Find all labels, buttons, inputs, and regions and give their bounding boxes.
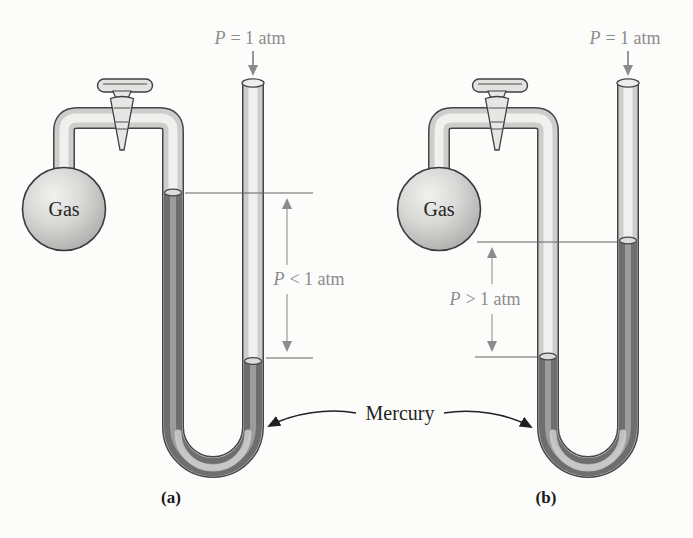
- mercury-column: [548, 242, 628, 467]
- gas-bulb-label: Gas: [48, 198, 79, 220]
- mercury-meniscus-open-side: [245, 358, 262, 365]
- u-tube-outline: [439, 83, 628, 467]
- u-tube-outline: [64, 83, 253, 467]
- figure-canvas: Gas P= 1 atm P< 1 atm (a): [0, 0, 693, 538]
- atm-pressure-label: P= 1 atm: [213, 28, 285, 48]
- manometer-a: Gas P= 1 atm P< 1 atm (a): [23, 28, 345, 507]
- stopcock-handle: [473, 79, 528, 92]
- open-tube-mouth: [617, 79, 639, 87]
- panel-caption: (b): [536, 488, 557, 507]
- mercury-meniscus-gas-side: [540, 353, 557, 360]
- manometer-b: Gas P= 1 atm P> 1 atm (b): [398, 28, 661, 507]
- gas-pressure-label: P> 1 atm: [448, 289, 520, 309]
- mercury-meniscus-gas-side: [165, 189, 182, 196]
- mercury-pointer-right: [444, 411, 531, 427]
- u-tube-glass-highlight: [64, 83, 253, 467]
- mercury-label: Mercury: [366, 402, 435, 425]
- mercury-column-highlight: [173, 196, 253, 467]
- stopcock-handle: [98, 79, 153, 92]
- u-tube-glass: [439, 83, 628, 467]
- u-tube-glass: [64, 83, 253, 467]
- u-tube-glass-highlight: [439, 83, 628, 467]
- mercury-meniscus-open-side: [620, 237, 637, 244]
- mercury-column-highlight: [548, 244, 628, 467]
- open-tube-mouth: [242, 79, 264, 87]
- atm-pressure-label: P= 1 atm: [588, 28, 660, 48]
- panel-caption: (a): [161, 488, 181, 507]
- manometer-figure: Gas P= 1 atm P< 1 atm (a): [0, 0, 693, 538]
- gas-bulb-label: Gas: [423, 198, 454, 220]
- mercury-pointer-left: [269, 411, 356, 426]
- mercury-column: [173, 194, 253, 467]
- mercury-annotation: Mercury: [269, 402, 531, 427]
- gas-pressure-label: P< 1 atm: [272, 269, 344, 289]
